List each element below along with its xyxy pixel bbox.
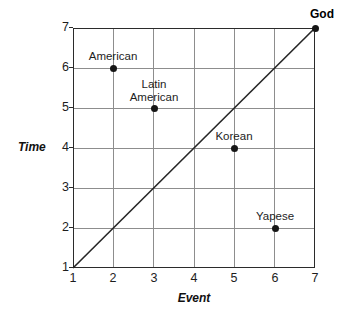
- data-point-god[interactable]: [312, 25, 319, 32]
- point-label-god: God: [310, 8, 334, 21]
- point-label-yapese: Yapese: [256, 210, 294, 223]
- y-tick-label-5: 5: [47, 101, 69, 114]
- plot-area: [73, 28, 315, 268]
- scatter-chart-figure: Time 7 6 5 4 3 2 1 American LatinAmerica: [0, 0, 355, 313]
- data-point-latin-american[interactable]: [151, 105, 158, 112]
- point-label-latin-american-line2: American: [130, 91, 179, 103]
- y-tick-label-7: 7: [47, 21, 69, 34]
- point-label-latin-american-line1: Latin: [142, 78, 167, 90]
- x-tick-label-3: 3: [142, 272, 166, 285]
- point-label-korean: Korean: [215, 130, 252, 143]
- data-point-korean[interactable]: [231, 145, 238, 152]
- data-point-american[interactable]: [110, 65, 117, 72]
- x-tick-label-7: 7: [303, 272, 327, 285]
- x-tick-label-2: 2: [101, 272, 125, 285]
- y-tick-label-4: 4: [47, 141, 69, 154]
- x-tick-label-1: 1: [61, 272, 85, 285]
- y-tick-label-2: 2: [47, 221, 69, 234]
- gridline-horizontal-y4: [74, 148, 314, 149]
- x-tick-label-6: 6: [263, 272, 287, 285]
- x-axis-title: Event: [0, 291, 355, 305]
- x-tick-label-4: 4: [182, 272, 206, 285]
- y-tick-label-3: 3: [47, 181, 69, 194]
- data-point-yapese[interactable]: [272, 225, 279, 232]
- point-label-latin-american: LatinAmerican: [123, 78, 185, 103]
- gridline-horizontal-y5: [74, 108, 314, 109]
- gridline-horizontal-y3: [74, 188, 314, 189]
- x-tick-label-5: 5: [222, 272, 246, 285]
- point-label-american: American: [89, 50, 138, 63]
- y-tick-label-6: 6: [47, 61, 69, 74]
- y-axis-title: Time: [18, 140, 46, 154]
